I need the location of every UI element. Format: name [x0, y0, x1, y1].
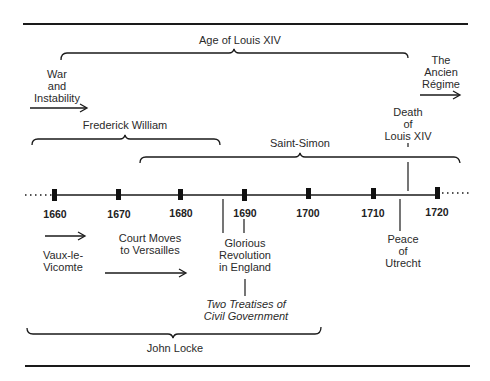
label-vaux-le-vicomte: Vaux-le- Vicomte	[28, 249, 98, 273]
label-saint-simon: Saint-Simon	[250, 137, 350, 149]
brace-saint-simon	[140, 153, 460, 163]
year-label-1680: 1680	[169, 207, 192, 219]
brace-john-locke	[27, 327, 321, 338]
year-label-1690: 1690	[233, 207, 256, 219]
label-age-of-louis-xiv: Age of Louis XIV	[185, 34, 295, 46]
tick-1690	[242, 189, 247, 201]
arrow-court-moves	[105, 269, 186, 277]
label-court-moves-to-versailles: Court Moves to Versailles	[100, 232, 200, 256]
label-ancien-regime: The Ancien Régime	[411, 54, 471, 90]
label-glorious-revolution: Glorious Revolution in England	[208, 237, 282, 273]
tick-1700	[306, 188, 311, 199]
arrow-vaux-le-vicomte	[45, 232, 85, 240]
label-death-of-louis-xiv: Death of Louis XIV	[378, 106, 438, 142]
brace-frederick-william	[32, 135, 220, 145]
tick-1680	[178, 189, 183, 200]
label-war-and-instability: War and Instability	[22, 68, 92, 104]
year-label-1660: 1660	[43, 208, 66, 220]
label-peace-of-utrecht: Peace of Utrecht	[373, 233, 433, 269]
tick-1660	[52, 189, 57, 201]
year-label-1720: 1720	[425, 206, 448, 218]
tick-1670	[116, 189, 121, 200]
label-two-treatises: Two Treatises of Civil Government	[190, 298, 302, 322]
label-frederick-william: Frederick William	[70, 119, 180, 131]
label-john-locke: John Locke	[125, 342, 225, 354]
brace-age-of-louis-xiv	[61, 49, 408, 60]
arrow-war-and-instability	[30, 104, 87, 112]
year-label-1700: 1700	[296, 207, 319, 219]
year-label-1670: 1670	[107, 208, 130, 220]
arrow-ancien-regime	[420, 91, 460, 99]
tick-1720	[435, 187, 440, 199]
year-label-1710: 1710	[361, 207, 384, 219]
tick-1710	[371, 188, 376, 199]
